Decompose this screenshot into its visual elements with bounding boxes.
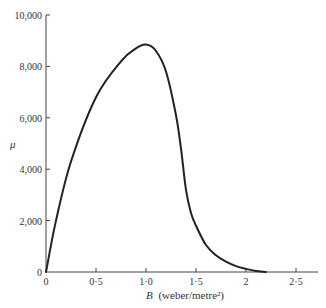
y-tick-label: 0 [37, 267, 42, 278]
x-tick-label: 2 [244, 276, 249, 287]
y-axis: 02,0004,0006,0008,00010,000 [15, 10, 51, 278]
x-axis-label: B (weber/metre²) [146, 289, 224, 302]
x-tick-label: 1·0 [139, 276, 152, 287]
y-tick-label: 2,000 [20, 216, 43, 227]
y-tick-label: 4,000 [20, 164, 43, 175]
x-axis: 00·51·01·522·5 [44, 268, 319, 287]
chart: 02,0004,0006,0008,00010,000 00·51·01·522… [0, 0, 326, 308]
permeability-curve [46, 45, 266, 272]
y-axis-label: μ [9, 138, 16, 150]
y-tick-label: 10,000 [15, 10, 43, 21]
x-tick-label: 2·5 [289, 276, 302, 287]
y-tick-label: 6,000 [20, 113, 43, 124]
y-tick-label: 8,000 [20, 61, 43, 72]
x-tick-label: 1·5 [189, 276, 202, 287]
x-tick-label: 0 [44, 276, 49, 287]
x-tick-label: 0·5 [89, 276, 102, 287]
